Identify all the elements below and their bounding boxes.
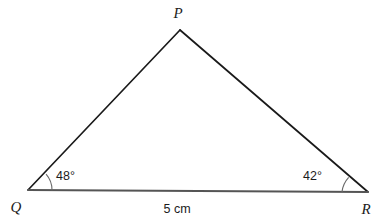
diagram-background <box>0 0 386 221</box>
vertex-label-p: P <box>172 5 182 21</box>
triangle-figure: P Q R 48° 42° 5 cm <box>0 0 386 221</box>
triangle-diagram-canvas: P Q R 48° 42° 5 cm <box>0 0 386 221</box>
vertex-label-q: Q <box>11 199 22 215</box>
vertex-label-r: R <box>360 201 370 217</box>
side-length-label-qr: 5 cm <box>163 202 190 216</box>
angle-label-q: 48° <box>56 169 75 183</box>
angle-label-r: 42° <box>303 169 322 183</box>
